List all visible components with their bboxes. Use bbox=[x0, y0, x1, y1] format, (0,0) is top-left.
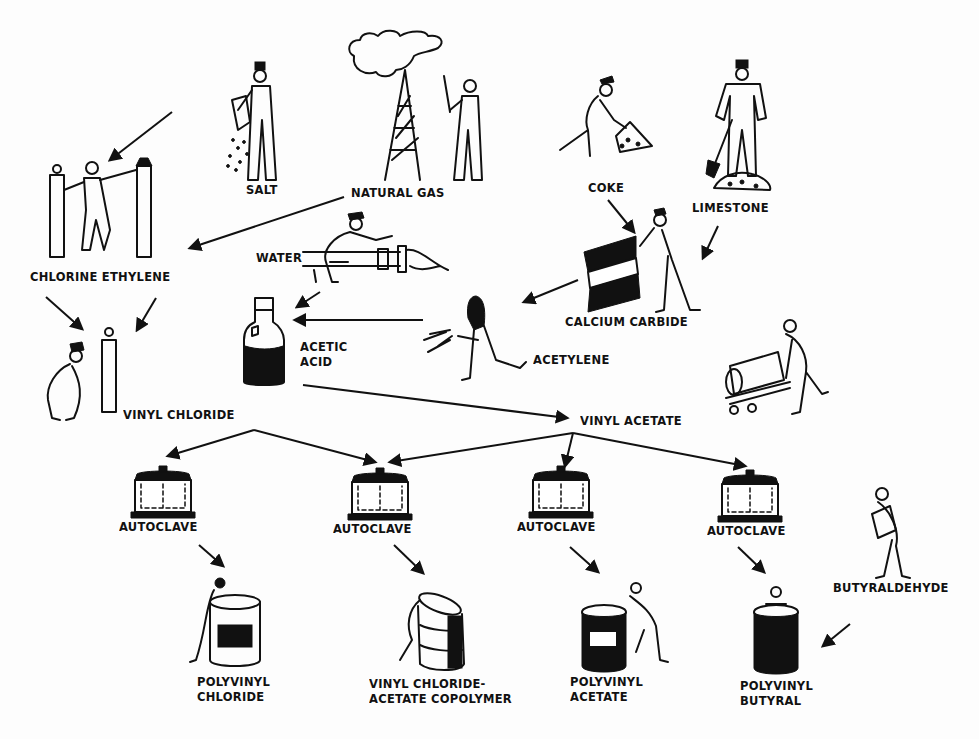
diagram-canvas: SALT NATURAL GAS COKE LIMESTONE WATER BU… bbox=[0, 0, 979, 739]
drum-cart-worker-icon bbox=[726, 320, 828, 414]
label-limestone: LIMESTONE bbox=[692, 200, 769, 215]
arrow-vinyl-acetate-to-autoclave-3 bbox=[565, 433, 573, 466]
autoclave-icons bbox=[131, 466, 782, 522]
arrow-vinyl-chloride-to-autoclave-1 bbox=[168, 430, 254, 456]
arrow-chlorine-ethylene-to-vinyl-chloride bbox=[46, 297, 82, 329]
flow-arrows bbox=[46, 112, 850, 646]
label-polyvinyl-butyral: POLYVINYL BUTYRAL bbox=[740, 678, 813, 708]
label-vinyl-chloride: VINYL CHLORIDE bbox=[123, 407, 235, 422]
acid-bottle-icon bbox=[244, 298, 284, 385]
label-acetic-acid: ACETIC ACID bbox=[300, 339, 347, 369]
arrow-coke-to-calcium-carbide bbox=[608, 200, 634, 232]
arrow-calcium-carbide-to-acetylene bbox=[524, 280, 578, 302]
drum-pvc-icon bbox=[190, 578, 260, 666]
worker-carrying-drum-icon bbox=[872, 488, 910, 578]
gas-derrick-icon bbox=[349, 31, 482, 180]
arrow-chlorine-ethylene-to-vinyl-chloride bbox=[137, 298, 156, 330]
arrow-limestone-to-calcium-carbide bbox=[703, 226, 718, 258]
label-salt: SALT bbox=[246, 182, 278, 197]
label-autoclave-1: AUTOCLAVE bbox=[119, 519, 198, 534]
arrow-vinyl-chloride-to-autoclave-2 bbox=[254, 430, 375, 462]
label-water: WATER bbox=[256, 250, 302, 265]
arrow-autoclave-3-to-pva bbox=[570, 547, 598, 572]
cylinder-worker-icon bbox=[48, 328, 116, 420]
label-natural-gas: NATURAL GAS bbox=[351, 185, 445, 200]
arrow-vinyl-acetate-to-autoclave-2 bbox=[390, 433, 573, 462]
arrow-water-to-acetic-acid bbox=[297, 292, 320, 307]
carbide-drum-icon bbox=[584, 208, 700, 312]
arrow-vinyl-acetate-to-autoclave-4 bbox=[573, 433, 745, 466]
drum-pvb-icon bbox=[754, 587, 798, 674]
worker-with-limestone-icon bbox=[706, 60, 770, 190]
diagram-artwork bbox=[0, 0, 979, 739]
drum-copolymer-icon bbox=[400, 589, 464, 670]
welder-icon bbox=[424, 296, 526, 380]
label-autoclave-3: AUTOCLAVE bbox=[517, 519, 596, 534]
label-vinyl-chloride-acetate-copolymer: VINYL CHLORIDE- ACETATE COPOLYMER bbox=[369, 676, 512, 706]
label-autoclave-4: AUTOCLAVE bbox=[707, 523, 786, 538]
label-chlorine-ethylene: CHLORINE ETHYLENE bbox=[30, 269, 170, 284]
label-polyvinyl-acetate: POLYVINYL ACETATE bbox=[570, 674, 643, 704]
arrow-acetic-acid-to-vinyl-acetate bbox=[303, 385, 567, 418]
arrow-autoclave-4-to-pvb bbox=[738, 547, 764, 572]
gas-cylinders-worker-icon bbox=[50, 158, 152, 257]
label-calcium-carbide: CALCIUM CARBIDE bbox=[565, 314, 688, 329]
arrow-natural-gas-to-chlorine-ethylene bbox=[190, 197, 344, 248]
arrow-butyraldehyde-to-pvb bbox=[823, 624, 850, 646]
label-coke: COKE bbox=[588, 180, 624, 195]
water-pipe-worker-icon bbox=[303, 212, 448, 282]
arrow-salt-to-chlorine-ethylene bbox=[110, 112, 172, 160]
label-autoclave-2: AUTOCLAVE bbox=[333, 521, 412, 536]
label-vinyl-acetate: VINYL ACETATE bbox=[580, 413, 682, 428]
arrow-autoclave-1-to-pvc bbox=[199, 545, 223, 566]
label-butyraldehyde: BUTYRALDEHYDE bbox=[833, 580, 949, 595]
worker-pouring-salt-icon bbox=[227, 62, 276, 180]
label-polyvinyl-chloride: POLYVINYL CHLORIDE bbox=[197, 674, 270, 704]
label-acetylene: ACETYLENE bbox=[533, 352, 610, 367]
arrow-autoclave-2-to-copolymer bbox=[394, 545, 423, 573]
drum-pva-icon bbox=[582, 583, 668, 672]
worker-shoveling-coke-icon bbox=[560, 76, 652, 156]
